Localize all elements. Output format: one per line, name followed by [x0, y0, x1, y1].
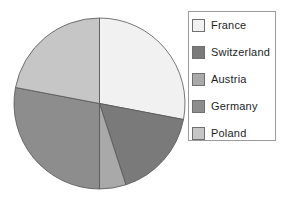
legend-label: Poland: [211, 126, 246, 140]
pie-slice-germany: [14, 87, 100, 189]
chart-canvas: FranceSwitzerlandAustriaGermanyPoland: [0, 0, 281, 197]
legend-label: Germany: [211, 99, 258, 113]
legend-item-poland: Poland: [192, 126, 275, 140]
legend-swatch-poland: [192, 127, 205, 140]
pie-slice-france: [100, 18, 186, 120]
legend-item-france: France: [192, 18, 275, 32]
legend-label: Switzerland: [211, 45, 270, 59]
legend-swatch-switzerland: [192, 46, 205, 59]
legend-item-germany: Germany: [192, 99, 275, 113]
legend-swatch-germany: [192, 100, 205, 113]
legend-label: Austria: [211, 72, 247, 86]
legend-label: France: [211, 18, 246, 32]
pie-slices-group: [14, 18, 185, 189]
legend-item-austria: Austria: [192, 72, 275, 86]
legend-swatch-austria: [192, 73, 205, 86]
legend-item-switzerland: Switzerland: [192, 45, 275, 59]
legend-box: FranceSwitzerlandAustriaGermanyPoland: [188, 11, 276, 141]
legend-swatch-france: [192, 19, 205, 32]
